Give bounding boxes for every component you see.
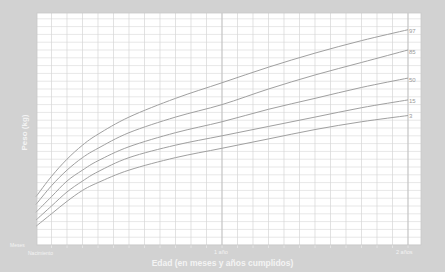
x-axis-meses-label: Meses [10, 242, 25, 248]
percentile-label-3: 3 [409, 113, 412, 119]
y-axis-label: Peso (kg) [20, 103, 29, 163]
percentile-label-15: 15 [409, 98, 416, 104]
x-axis-label: Edad (en meses y años cumplidos) [0, 258, 445, 268]
percentile-label-85: 85 [409, 49, 416, 55]
percentile-label-97: 97 [409, 28, 416, 34]
x-tick-nacimiento: Nacimiento [28, 250, 53, 256]
x-tick-1-year: 1 año [214, 249, 228, 255]
x-tick-2-years: 2 años [396, 249, 413, 255]
growth-chart-plot [0, 0, 445, 272]
percentile-label-50: 50 [409, 77, 416, 83]
plot-area [37, 13, 421, 245]
